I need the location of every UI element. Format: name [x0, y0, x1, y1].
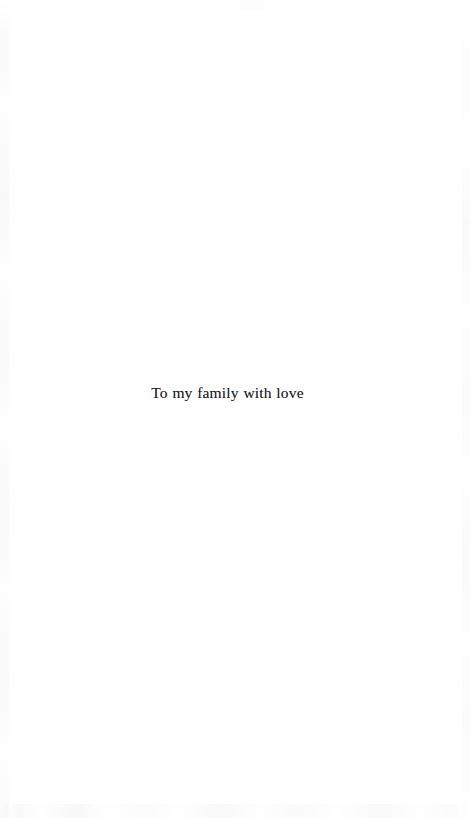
dedication-text: To my family with love: [151, 382, 304, 404]
dedication-block: To my family with love: [0, 382, 455, 404]
scan-noise-bottom-edge: [0, 804, 470, 818]
scan-noise-left-edge: [0, 0, 9, 818]
scan-noise-right-edge: [462, 0, 470, 818]
dedication-page: To my family with love: [0, 0, 470, 818]
scan-noise-top-edge: [0, 0, 470, 10]
